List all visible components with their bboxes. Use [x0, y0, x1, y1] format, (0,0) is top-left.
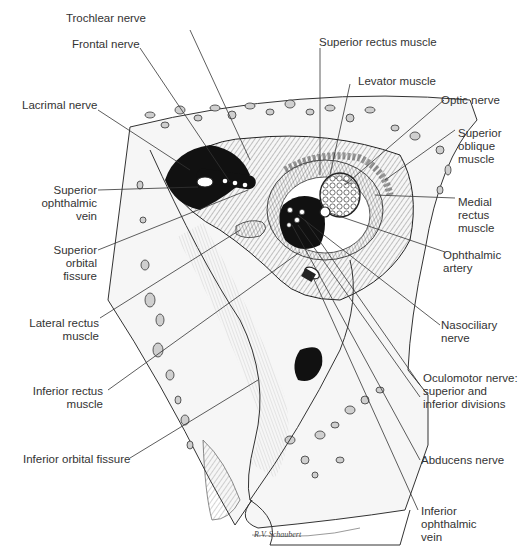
- label-superior-oblique-muscle: Superior oblique muscle: [458, 127, 501, 166]
- artist-signature: R.V. Schaubert: [254, 528, 301, 541]
- label-inferior-ophthalmic-vein: Inferior ophthalmic vein: [421, 505, 477, 544]
- label-inferior-orbital-fissure: Inferior orbital fissure: [23, 453, 130, 466]
- label-trochlear-nerve: Trochlear nerve: [66, 12, 146, 25]
- orbit-anatomy-figure: Trochlear nerve Frontal nerve Lacrimal n…: [0, 0, 529, 557]
- label-superior-orbital-fissure: Superior orbital fissure: [20, 244, 97, 283]
- label-lacrimal-nerve: Lacrimal nerve: [22, 99, 97, 112]
- label-oculomotor-nerve: Oculomotor nerve: superior and inferior …: [423, 372, 518, 411]
- label-frontal-nerve: Frontal nerve: [72, 38, 140, 51]
- label-levator-muscle: Levator muscle: [358, 75, 436, 88]
- label-abducens-nerve: Abducens nerve: [421, 454, 504, 467]
- label-ophthalmic-artery: Ophthalmic artery: [443, 249, 501, 275]
- label-inferior-rectus-muscle: Inferior rectus muscle: [20, 385, 103, 411]
- label-superior-ophthalmic-vein: Superior ophthalmic vein: [20, 184, 97, 223]
- label-optic-nerve: Optic nerve: [441, 94, 500, 107]
- label-superior-rectus-muscle: Superior rectus muscle: [319, 36, 437, 49]
- label-medial-rectus-muscle: Medial rectus muscle: [458, 196, 494, 235]
- label-lateral-rectus-muscle: Lateral rectus muscle: [20, 317, 99, 343]
- label-nasociliary-nerve: Nasociliary nerve: [441, 319, 497, 345]
